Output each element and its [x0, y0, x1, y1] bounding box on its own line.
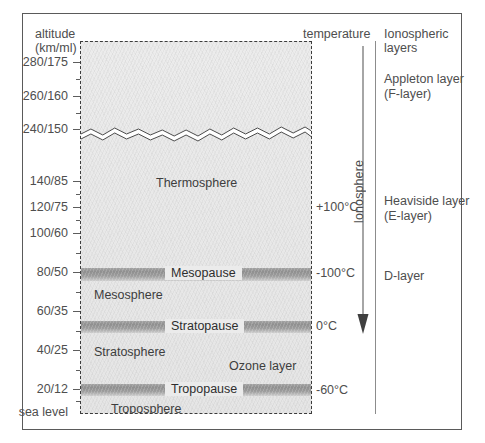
- axis-label: 140/85: [30, 174, 68, 188]
- atmosphere-diagram: altitude (km/ml) temperature Ionospheric…: [0, 0, 485, 443]
- axis-tick-major: [73, 181, 80, 182]
- ionospheric-layer-appleton: Appleton layer (F-layer): [384, 72, 464, 102]
- ionospheric-layer-heaviside: Heaviside layer (E-layer): [384, 194, 469, 224]
- axis-label: 80/50: [37, 265, 68, 279]
- axis-label-sea-level: sea level: [19, 405, 68, 419]
- axis-tick-major: [73, 96, 80, 97]
- layer-label-ozone: Ozone layer: [229, 359, 296, 373]
- axis-label: 120/75: [30, 200, 68, 214]
- atmosphere-plot-area: Thermosphere Mesopause Mesosphere Strato…: [80, 41, 312, 414]
- axis-label: 280/175: [23, 55, 68, 69]
- layer-label-stratopause: Stratopause: [165, 319, 244, 333]
- axis-tick-major: [73, 207, 80, 208]
- axis-label: 240/150: [23, 122, 68, 136]
- ionospheric-layer-d: D-layer: [384, 269, 424, 284]
- axis-tick-major: [73, 272, 80, 273]
- axis-break-zigzag: [80, 124, 312, 142]
- temperature-label: -100°C: [316, 266, 355, 280]
- axis-tick-major: [73, 129, 80, 130]
- axis-tick-major: [73, 311, 80, 312]
- axis-tick-major: [73, 389, 80, 390]
- column-divider: [375, 41, 376, 414]
- axis-label: 260/160: [23, 89, 68, 103]
- layer-label-stratosphere: Stratosphere: [94, 345, 166, 359]
- temperature-label: -60°C: [316, 383, 348, 397]
- layer-label-tropopause: Tropopause: [165, 382, 243, 396]
- axis-label: 40/25: [37, 343, 68, 357]
- axis-label: 60/35: [37, 304, 68, 318]
- axis-label: 20/12: [37, 382, 68, 396]
- layer-label-troposphere: Troposphere: [111, 402, 181, 414]
- axis-tick-major: [73, 233, 80, 234]
- axis-label: 100/60: [30, 226, 68, 240]
- layer-label-mesosphere: Mesosphere: [94, 288, 163, 302]
- altitude-axis: 280/175 260/160 240/150 140/85 120/75 10…: [0, 41, 80, 414]
- temperature-label: 0°C: [316, 319, 337, 333]
- layer-label-thermosphere: Thermosphere: [156, 176, 237, 190]
- axis-tick-major: [73, 62, 80, 63]
- layer-label-mesopause: Mesopause: [165, 266, 242, 280]
- temperature-heading: temperature: [303, 27, 370, 41]
- ionosphere-caption: Ionosphere: [352, 160, 366, 224]
- ionospheric-layers-heading: Ionospheric layers: [384, 27, 449, 55]
- axis-tick-major: [73, 350, 80, 351]
